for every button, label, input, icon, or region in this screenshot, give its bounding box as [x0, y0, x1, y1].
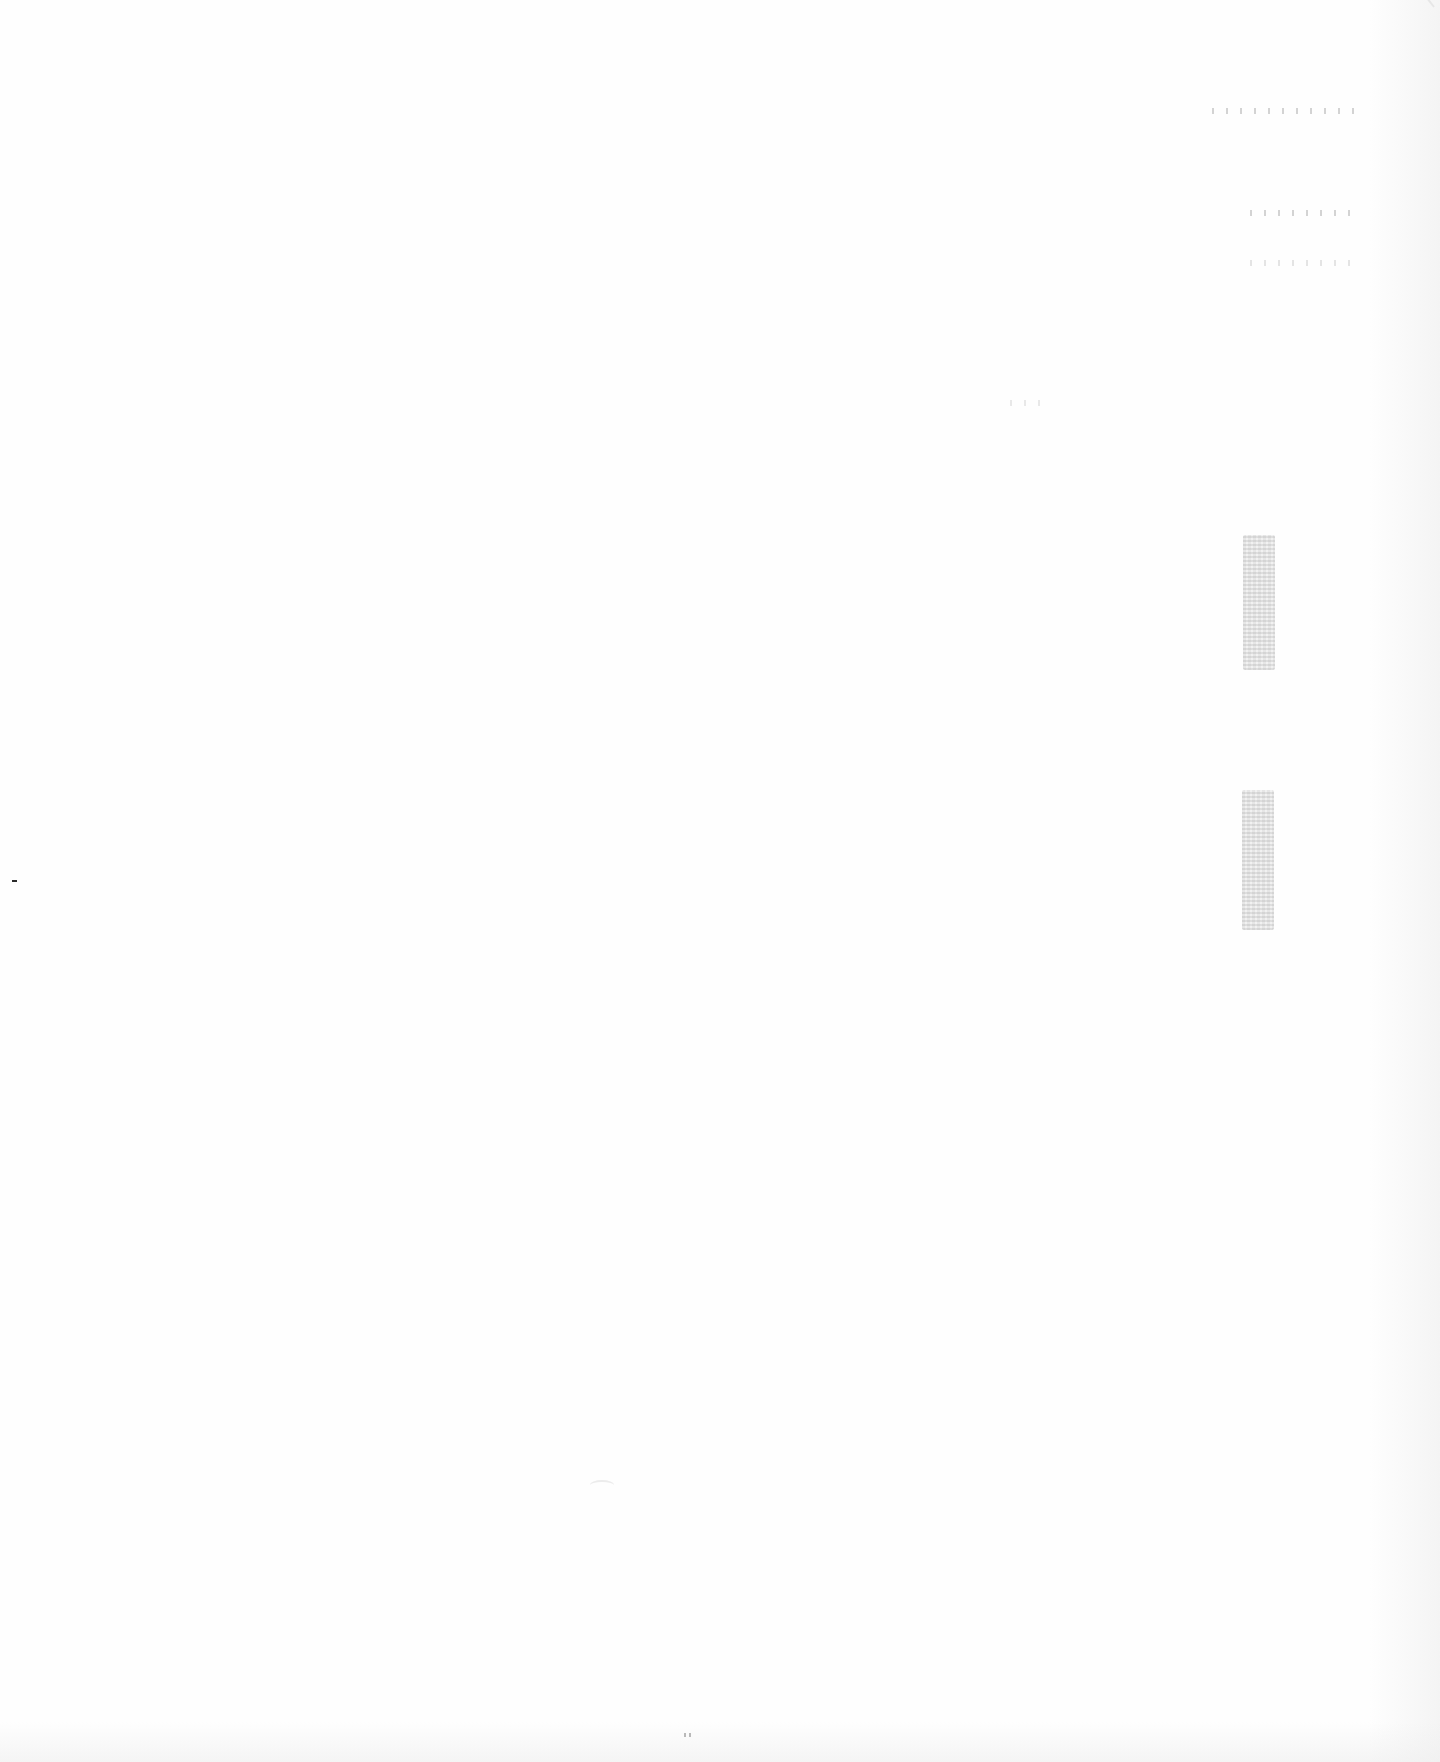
- show-through-speckles: [1250, 210, 1350, 216]
- faint-arc-mark: [590, 1480, 614, 1490]
- scan-smudge-lower: [1242, 790, 1274, 930]
- bottom-edge-shadow: [0, 1722, 1440, 1762]
- show-through-speckles: [1212, 108, 1362, 114]
- blank-page: [0, 0, 1440, 1762]
- show-through-speckles: [1010, 400, 1050, 406]
- right-edge-shadow: [1370, 0, 1440, 1762]
- bottom-center-mark: [684, 1733, 694, 1737]
- scan-smudge-upper: [1243, 535, 1275, 670]
- show-through-speckles: [1250, 260, 1350, 266]
- margin-dash-mark: [12, 880, 17, 882]
